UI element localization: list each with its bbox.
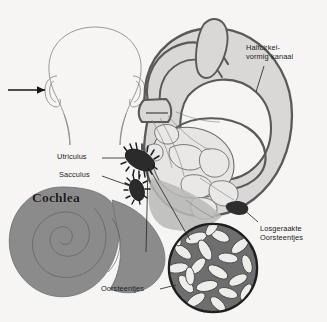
label-cochlea: Cochlea [32, 190, 80, 206]
inner-ear-figure: Halfcirkel- vormig kanaal Utriculus Sacc… [0, 0, 327, 322]
label-utriculus: Utriculus [57, 153, 87, 162]
label-otoliths: Oorsteentjes [101, 285, 144, 294]
label-semicircular-canal: Halfcirkel- vormig kanaal [246, 44, 324, 61]
label-sacculus: Sacculus [59, 171, 90, 180]
label-loose-otoliths: Losgeraakte Oorsteentjes [260, 225, 326, 242]
figure-caption [44, 309, 304, 318]
